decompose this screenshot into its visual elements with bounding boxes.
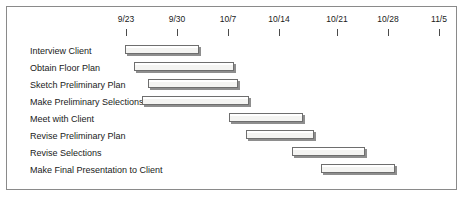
gantt-row: Obtain Floor Plan (7, 60, 458, 77)
axis-tick-label: 9/30 (169, 14, 186, 24)
gantt-row: Make Preliminary Selections (7, 94, 458, 111)
axis-tick-mark (228, 29, 229, 36)
axis-tick-mark (439, 29, 440, 36)
axis-tick-label: 10/14 (268, 14, 289, 24)
gantt-row: Revise Selections (7, 145, 458, 162)
axis-tick-label: 10/21 (326, 14, 347, 24)
task-label: Make Final Presentation to Client (30, 162, 163, 179)
task-label: Meet with Client (30, 111, 94, 128)
axis-tick-mark (388, 29, 389, 36)
task-label: Revise Preliminary Plan (30, 128, 126, 145)
task-bar[interactable] (229, 113, 303, 122)
task-bar[interactable] (246, 130, 314, 139)
task-label: Sketch Preliminary Plan (30, 77, 126, 94)
axis-tick-mark (279, 29, 280, 36)
task-bar[interactable] (148, 79, 238, 88)
gantt-row: Revise Preliminary Plan (7, 128, 458, 145)
gantt-chart-frame: 9/239/3010/710/1410/2110/2811/5 Intervie… (6, 6, 457, 190)
task-bar[interactable] (142, 96, 249, 105)
task-bar[interactable] (134, 62, 234, 71)
axis-tick-mark (126, 29, 127, 36)
task-bar[interactable] (125, 45, 199, 54)
axis-tick-mark (337, 29, 338, 36)
gantt-row: Interview Client (7, 43, 458, 60)
gantt-row: Make Final Presentation to Client (7, 162, 458, 179)
task-bar[interactable] (292, 147, 365, 156)
gantt-rows-area: Interview ClientObtain Floor PlanSketch … (7, 43, 458, 190)
task-label: Interview Client (30, 43, 92, 60)
task-bar[interactable] (321, 164, 395, 173)
axis-tick-label: 9/23 (118, 14, 135, 24)
axis-tick-mark (177, 29, 178, 36)
task-label: Obtain Floor Plan (30, 60, 100, 77)
axis-tick-label: 11/5 (431, 14, 447, 24)
task-label: Make Preliminary Selections (30, 94, 144, 111)
gantt-row: Sketch Preliminary Plan (7, 77, 458, 94)
axis-tick-label: 10/7 (220, 14, 237, 24)
axis-tick-label: 10/28 (377, 14, 398, 24)
task-label: Revise Selections (30, 145, 102, 162)
gantt-row: Meet with Client (7, 111, 458, 128)
time-axis: 9/239/3010/710/1410/2110/2811/5 (7, 7, 458, 43)
